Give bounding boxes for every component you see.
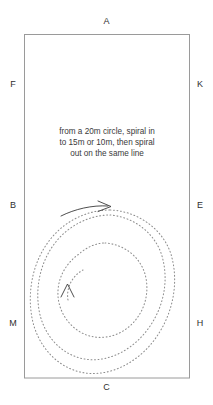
marker-label-F: F bbox=[6, 80, 20, 89]
instruction-line-2: to 15m or 10m, then spiral bbox=[28, 137, 186, 148]
instruction-line-3: out on the same line bbox=[28, 148, 186, 159]
marker-label-A: A bbox=[0, 17, 213, 26]
marker-label-H: H bbox=[193, 319, 207, 328]
instruction-line-1: from a 20m circle, spiral in bbox=[28, 126, 186, 137]
marker-label-C: C bbox=[0, 383, 213, 392]
instruction-text: from a 20m circle, spiral in to 15m or 1… bbox=[28, 126, 186, 159]
dressage-arena-figure bbox=[0, 0, 213, 405]
marker-label-E: E bbox=[193, 201, 207, 210]
marker-label-B: B bbox=[6, 201, 20, 210]
marker-label-M: M bbox=[6, 319, 20, 328]
marker-label-K: K bbox=[193, 80, 207, 89]
